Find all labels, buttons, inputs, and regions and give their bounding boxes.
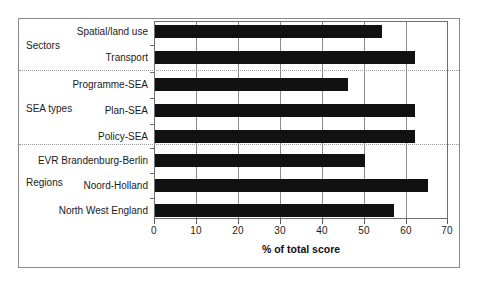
bar-north-west-england bbox=[155, 204, 394, 217]
x-tick-0 bbox=[154, 219, 155, 224]
x-tick-label-40: 40 bbox=[302, 225, 342, 236]
category-tick-5 bbox=[150, 148, 154, 149]
x-axis-title: % of total score bbox=[154, 243, 448, 255]
x-tick-40 bbox=[322, 219, 323, 224]
group-separator-sectors bbox=[19, 70, 459, 71]
x-tick-label-70: 70 bbox=[427, 225, 467, 236]
category-tick-7 bbox=[150, 198, 154, 199]
bar-plan-sea bbox=[155, 104, 415, 117]
category-label-policy-sea: Policy-SEA bbox=[0, 131, 148, 142]
category-label-spatial-land-use: Spatial/land use bbox=[0, 26, 148, 37]
category-tick-2 bbox=[150, 72, 154, 73]
x-tick-label-50: 50 bbox=[344, 225, 384, 236]
category-label-programme-sea: Programme-SEA bbox=[0, 79, 148, 90]
x-tick-50 bbox=[364, 219, 365, 224]
category-label-evr-brandenburg-berlin: EVR Brandenburg-Berlin bbox=[0, 155, 148, 166]
bar-programme-sea bbox=[155, 78, 348, 91]
bar-policy-sea bbox=[155, 130, 415, 143]
x-tick-label-0: 0 bbox=[134, 225, 174, 236]
category-tick-6 bbox=[150, 173, 154, 174]
category-label-noord-holland: Noord-Holland bbox=[0, 180, 148, 191]
x-tick-70 bbox=[447, 219, 448, 224]
bar-spatial-land-use bbox=[155, 25, 382, 38]
category-tick-1 bbox=[150, 45, 154, 46]
category-tick-4 bbox=[150, 124, 154, 125]
x-tick-label-60: 60 bbox=[386, 225, 426, 236]
x-tick-60 bbox=[406, 219, 407, 224]
x-tick-30 bbox=[280, 219, 281, 224]
x-tick-label-20: 20 bbox=[218, 225, 258, 236]
chart-figure: Sectors SEA types Regions Spatial/land u… bbox=[0, 0, 479, 286]
bar-transport bbox=[155, 51, 415, 64]
bar-evr-brandenburg-berlin bbox=[155, 154, 365, 167]
group-separator-seatypes bbox=[19, 144, 459, 145]
category-label-plan-sea: Plan-SEA bbox=[0, 105, 148, 116]
x-tick-20 bbox=[238, 219, 239, 224]
bar-noord-holland bbox=[155, 179, 428, 192]
x-tick-label-30: 30 bbox=[260, 225, 300, 236]
x-tick-10 bbox=[196, 219, 197, 224]
group-label-sectors: Sectors bbox=[26, 40, 60, 51]
category-label-transport: Transport bbox=[0, 52, 148, 63]
category-label-north-west-england: North West England bbox=[0, 205, 148, 216]
x-tick-label-10: 10 bbox=[176, 225, 216, 236]
category-tick-3 bbox=[150, 98, 154, 99]
